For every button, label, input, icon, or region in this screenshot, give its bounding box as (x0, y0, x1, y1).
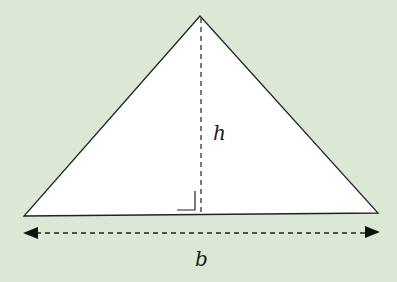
base-label: b (195, 249, 208, 269)
triangle-diagram: h b (0, 0, 397, 282)
arrowhead-left-icon (23, 227, 38, 239)
diagram-svg (0, 0, 397, 282)
arrowhead-right-icon (365, 226, 380, 238)
height-label: h (213, 123, 226, 143)
